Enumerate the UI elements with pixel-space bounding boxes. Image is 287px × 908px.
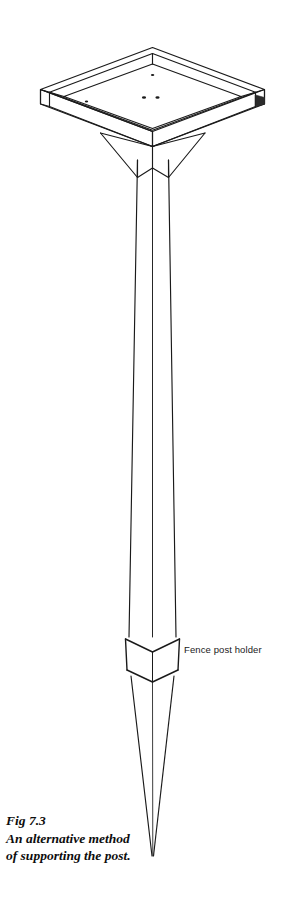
caption-line-two: An alternative method [6,830,131,848]
socket-left-corner-cap [41,90,50,107]
fence-post-holder-label: Fence post holder [184,644,262,656]
collar-band [126,639,180,682]
caption-figure-number: Fig 7.3 [6,812,131,830]
shaft [129,160,176,637]
tapered-point [131,676,174,856]
base-plate-fixing-holes [85,74,160,103]
caption-line-three: of supporting the post. [6,847,131,865]
figure-container: Fence post holder Fig 7.3 An alternative… [0,0,287,908]
figure-caption: Fig 7.3 An alternative method of support… [6,812,131,865]
socket-base-plate [64,64,241,129]
socket-outer-side-walls [41,90,265,147]
fence-post-holder-drawing [0,0,287,908]
